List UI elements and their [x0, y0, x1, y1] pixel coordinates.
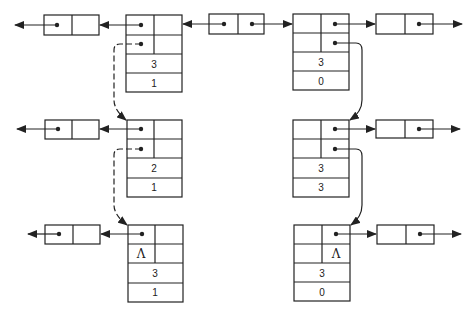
node-L1-value-a: 3: [151, 59, 157, 70]
dashed-link-L1-L2: [114, 44, 141, 120]
node-R1-value-b: 0: [318, 76, 324, 87]
node-R1-value-a: 3: [318, 57, 324, 68]
node-R3-value-a: 3: [319, 268, 325, 279]
node-L3-value-b: 1: [152, 287, 158, 298]
node-L2-value-b: 1: [151, 182, 157, 193]
node-L3-value-a: 3: [152, 268, 158, 279]
linked-structure-diagram: 3 1 2 1 Λ 3 1 3 0 3 3 Λ 3 0: [0, 0, 473, 316]
node-R2-value-b: 3: [318, 182, 324, 193]
null-symbol: Λ: [136, 247, 146, 261]
node-L1-value-b: 1: [151, 78, 157, 89]
node-R2-value-a: 3: [318, 163, 324, 174]
node-L2-value-a: 2: [151, 163, 157, 174]
null-symbol: Λ: [331, 247, 341, 261]
node-R3-value-b: 0: [319, 287, 325, 298]
